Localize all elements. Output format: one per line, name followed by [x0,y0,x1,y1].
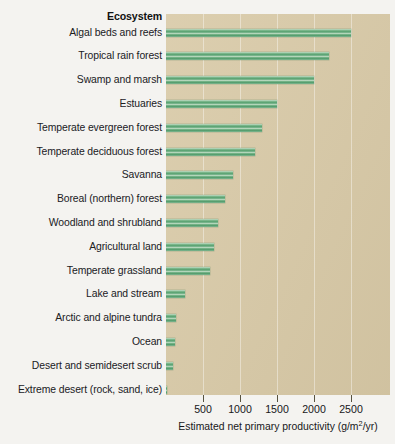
category-label: Ocean [0,330,162,354]
category-label: Agricultural land [0,235,162,259]
bar [166,267,210,275]
bar [166,171,233,179]
bar-row [166,330,390,354]
bar [166,362,173,370]
category-label: Desert and semidesert scrub [0,354,162,378]
tick-label-500: 500 [194,403,212,415]
bar-row [166,211,390,235]
tick-label-2000: 2000 [302,403,326,415]
bar-row [166,140,390,164]
bar [166,148,255,156]
x-axis-title: Estimated net primary productivity (g/m2… [166,421,390,432]
category-label: Temperate deciduous forest [0,140,162,164]
bar-row [166,92,390,116]
tick-mark-1500 [277,395,278,402]
chart-figure: Ecosystem Algal beds and reefsTropical r… [0,0,395,444]
category-label: Temperate grassland [0,259,162,283]
bar [166,100,277,108]
category-label: Tropical rain forest [0,44,162,68]
bar [166,52,329,60]
bar [166,314,176,322]
bar-row [166,282,390,306]
tick-label-1500: 1500 [265,403,289,415]
bar-row [166,259,390,283]
category-label: Temperate evergreen forest [0,116,162,140]
tick-label-1000: 1000 [228,403,252,415]
tick-label-2500: 2500 [339,403,363,415]
bar [166,124,262,132]
bar-row [166,354,390,378]
category-label: Estuaries [0,92,162,116]
category-label: Extreme desert (rock, sand, ice) [0,378,162,402]
bar [166,29,351,37]
bar [166,290,185,298]
x-axis: 5001000150020002500 Estimated net primar… [166,395,390,444]
tick-mark-2000 [314,395,315,402]
category-label: Lake and stream [0,282,162,306]
bar-row [166,378,390,396]
bar-row [166,163,390,187]
category-label: Savanna [0,163,162,187]
bar-row [166,68,390,92]
bar-row [166,44,390,68]
category-label: Swamp and marsh [0,68,162,92]
bar-row [166,21,390,45]
tick-mark-500 [203,395,204,402]
tick-mark-2500 [351,395,352,402]
tick-mark-1000 [240,395,241,402]
category-label: Arctic and alpine tundra [0,306,162,330]
bar-row [166,235,390,259]
bar [166,219,218,227]
bar-row [166,306,390,330]
bar-row [166,116,390,140]
bar [166,76,314,84]
bar-row [166,187,390,211]
bar [166,243,214,251]
bar [166,195,225,203]
category-label: Woodland and shrubland [0,211,162,235]
bar [166,386,167,394]
category-label: Algal beds and reefs [0,21,162,45]
category-label: Boreal (northern) forest [0,187,162,211]
plot-area [166,14,390,395]
bar [166,338,175,346]
